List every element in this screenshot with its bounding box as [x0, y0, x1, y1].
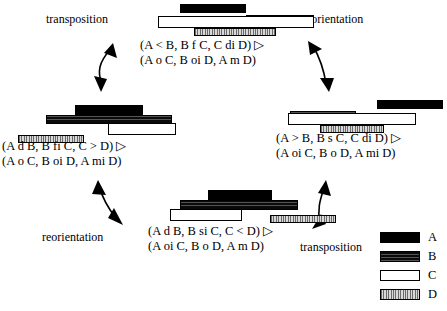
relation-line-2: (A o C, B oi D, A m D) — [140, 53, 264, 68]
relation-line-1: (A d B, B si C, C < D) ▷ — [148, 224, 273, 239]
bar-A — [180, 4, 246, 13]
legend-swatch-B — [380, 251, 420, 262]
legend-label-A: A — [428, 230, 437, 245]
node-top-bars — [158, 4, 318, 38]
relation-line-2: (A oi C, B o D, A mi D) — [276, 146, 401, 161]
bar-C — [170, 209, 242, 221]
relation-line-1: (A > B, B s C, C di D) ▷ — [276, 131, 401, 146]
legend-label-B: B — [428, 249, 436, 264]
relation-line-1: (A d B, B fi C, C > D) ▷ — [2, 139, 126, 154]
legend-swatch-C — [380, 270, 420, 281]
bar-A — [208, 190, 272, 200]
operation-label-transposition-top-left: transposition — [46, 12, 108, 27]
legend-label-D: D — [428, 287, 437, 302]
operation-label-transposition-bottom-right: transposition — [300, 240, 362, 255]
relation-line-2: (A oi C, B o D, A m D) — [148, 239, 273, 254]
legend-swatch-D — [380, 289, 420, 300]
bar-A — [377, 100, 443, 109]
node-bottom-relations: (A d B, B si C, C < D) ▷ (A oi C, B o D,… — [148, 224, 273, 254]
bar-C — [288, 113, 416, 125]
bar-C — [108, 123, 176, 135]
legend-label-C: C — [428, 268, 436, 283]
relation-line-1: (A < B, B f C, C di D) ▷ — [140, 38, 264, 53]
arrow-top-right-double — [300, 38, 350, 93]
node-bottom-bars — [170, 190, 340, 226]
bar-D — [270, 215, 336, 223]
node-left-relations: (A d B, B fi C, C > D) ▷ (A o C, B oi D,… — [2, 139, 126, 169]
relation-line-2: (A o C, B oi D, A mi D) — [2, 154, 126, 169]
legend-swatch-A — [380, 232, 420, 243]
node-right-relations: (A > B, B s C, C di D) ▷ (A oi C, B o D,… — [276, 131, 401, 161]
bar-D — [194, 28, 276, 36]
arrow-top-left-double — [80, 38, 130, 93]
arrow-bottom-left-double — [83, 178, 133, 233]
node-top-relations: (A < B, B f C, C di D) ▷ (A o C, B oi D,… — [140, 38, 264, 68]
bar-C — [158, 16, 314, 28]
